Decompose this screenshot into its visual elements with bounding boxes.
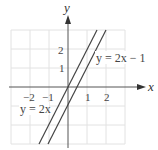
x-axis-arrow-icon <box>137 84 146 90</box>
coordinate-graph: x y −2 −1 1 2 1 2 y = 2x − 1 y = 2x <box>0 0 158 150</box>
y-axis-label: y <box>62 0 70 15</box>
x-axis-label: x <box>147 79 154 94</box>
y-axis <box>65 15 71 148</box>
equation-label-2x-minus-1: y = 2x − 1 <box>96 51 146 65</box>
x-tick-label: 2 <box>104 91 110 103</box>
equation-label-2x: y = 2x <box>20 102 51 116</box>
x-tick-label: 1 <box>85 91 91 103</box>
y-tick-label: 1 <box>59 62 65 74</box>
y-tick-label: 2 <box>58 44 64 56</box>
y-axis-arrow-icon <box>65 15 71 24</box>
